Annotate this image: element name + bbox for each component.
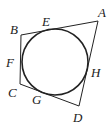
tangent-label-g: G [32, 92, 42, 107]
tangent-label-e: E [41, 14, 50, 29]
vertex-label-a: A [97, 5, 106, 20]
tangent-label-h: H [90, 65, 101, 80]
inscribed-circle-diagram: A B C D E F G H [0, 0, 109, 127]
tangent-label-f: F [5, 55, 15, 70]
vertex-label-c: C [8, 85, 17, 100]
inscribed-circle [22, 29, 88, 95]
vertex-label-d: D [72, 110, 83, 125]
vertex-label-b: B [10, 22, 18, 37]
